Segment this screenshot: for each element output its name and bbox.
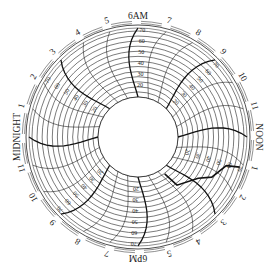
hour-label: 6PM xyxy=(128,253,147,263)
hour-arc xyxy=(148,176,169,243)
scale-label: 40 xyxy=(188,83,196,91)
scale-label: 20 xyxy=(172,98,180,106)
scale-label: 70 xyxy=(55,205,63,213)
hour-label: 4 xyxy=(73,27,82,38)
hour-label: 4 xyxy=(194,236,203,247)
scale-label: 30 xyxy=(133,197,139,203)
hour-label: 7 xyxy=(166,15,173,26)
hour-label: 10 xyxy=(236,70,249,83)
hour-arc xyxy=(33,147,100,168)
hour-arc xyxy=(107,32,128,99)
scale-label: 50 xyxy=(138,49,144,55)
scale-label: 70 xyxy=(236,165,243,172)
scale-label: 70 xyxy=(139,27,145,33)
hour-label: 8 xyxy=(194,27,203,38)
hour-label: 11 xyxy=(15,163,27,174)
scale-label: 20 xyxy=(90,105,98,113)
hour-label: 10 xyxy=(26,191,39,204)
hour-label: 7 xyxy=(103,248,110,259)
scale-label: 30 xyxy=(194,152,201,159)
hour-label: 1 xyxy=(249,165,260,172)
scale-label: 40 xyxy=(138,60,144,66)
scale-label: 60 xyxy=(53,82,61,90)
scale-label: 50 xyxy=(215,158,222,165)
circular-chart: 6AM7891011NOON123456PM7891011MIDNIGHT123… xyxy=(0,0,277,274)
chart-svg: 6AM7891011NOON123456PM7891011MIDNIGHT123… xyxy=(0,0,277,274)
hour-arc xyxy=(177,106,244,127)
scale-label: 30 xyxy=(88,175,96,183)
scale-label: 50 xyxy=(132,219,138,225)
hour-label: 9 xyxy=(47,217,58,228)
hour-label: 11 xyxy=(249,100,261,111)
hour-label: 6AM xyxy=(128,11,149,21)
hour-label: MIDNIGHT xyxy=(12,113,22,161)
scale-label: 70 xyxy=(212,60,220,68)
scale-label: 20 xyxy=(96,168,104,176)
scale-label: 20 xyxy=(133,186,139,192)
scale-label: 30 xyxy=(180,90,188,98)
hour-label: 3 xyxy=(47,46,58,57)
hour-label: 8 xyxy=(73,236,82,247)
hour-label: 5 xyxy=(103,15,110,26)
hour-label: 2 xyxy=(28,72,39,81)
scale-label: 60 xyxy=(131,230,137,236)
hour-label: 3 xyxy=(218,217,229,228)
scale-label: 40 xyxy=(72,94,80,102)
grid xyxy=(26,25,250,249)
hour-label: 5 xyxy=(165,248,172,259)
scale-label: 60 xyxy=(139,38,145,44)
scale-label: 30 xyxy=(81,100,89,108)
hour-label: 1 xyxy=(16,102,27,109)
hour-label: 2 xyxy=(237,193,248,202)
scale-label: 40 xyxy=(132,208,138,214)
hour-label: 9 xyxy=(218,46,229,57)
scale-label: 70 xyxy=(131,241,137,247)
scale-label: 40 xyxy=(80,183,88,191)
scale-label: 20 xyxy=(137,82,143,88)
hour-label: NOON xyxy=(254,123,264,151)
scale-label: 30 xyxy=(137,71,143,77)
